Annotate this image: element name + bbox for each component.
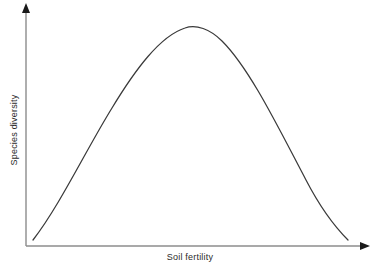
species-diversity-curve — [33, 27, 348, 240]
y-axis-label-container: Species diversity — [0, 0, 28, 271]
y-axis-label: Species diversity — [9, 95, 19, 166]
x-axis-arrow-icon — [360, 242, 370, 250]
chart-plot-area — [0, 0, 380, 271]
chart-figure: Species diversity Soil fertility — [0, 0, 380, 271]
x-axis-label: Soil fertility — [0, 252, 380, 262]
